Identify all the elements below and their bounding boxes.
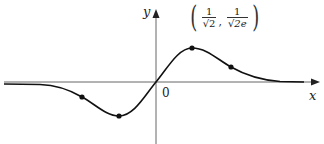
origin-label: 0	[162, 86, 170, 100]
x-axis-label: x	[309, 88, 316, 103]
maximum-point	[189, 45, 194, 50]
comma: ,	[218, 15, 222, 28]
max-x-numerator: 1	[206, 6, 212, 17]
max-y-denominator: √2e	[227, 17, 248, 29]
open-paren: (	[190, 2, 197, 32]
max-y-numerator: 1	[234, 6, 240, 17]
x-axis-arrow-icon	[311, 79, 320, 86]
inflection-point-left	[79, 94, 84, 99]
maximum-annotation: ( 1 √2 , 1 √2e )	[188, 2, 261, 32]
y-axis-arrow-icon	[153, 9, 160, 18]
max-x-fraction: 1 √2	[202, 6, 217, 29]
minimum-point	[116, 113, 121, 118]
max-x-denominator: √2	[202, 17, 217, 29]
function-plot	[0, 0, 324, 144]
close-paren: )	[252, 2, 259, 32]
y-axis-label: y	[143, 4, 150, 19]
inflection-point-right	[228, 64, 233, 69]
max-y-fraction: 1 √2e	[227, 6, 248, 29]
